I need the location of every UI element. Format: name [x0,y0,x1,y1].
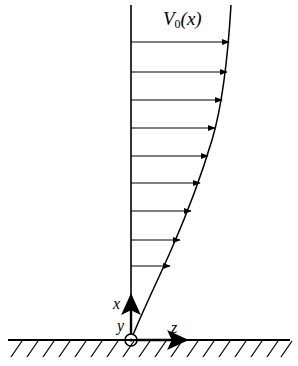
figure-canvas [0,0,298,366]
velocity-argument: (x) [181,8,202,29]
velocity-symbol: V [163,8,175,29]
velocity-label: V0(x) [163,9,202,30]
z-axis-label: z [171,320,177,336]
velocity-profile-curve [131,5,231,340]
y-axis-label: y [117,318,124,334]
wall-hatching [11,341,292,357]
x-axis-label: x [113,296,120,312]
velocity-vector-group [131,42,229,266]
velocity-profile-figure: V0(x) x y z [0,0,298,366]
